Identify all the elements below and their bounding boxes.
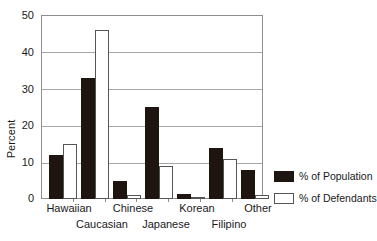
- bars-layer: [41, 15, 263, 199]
- legend-swatch-population-icon: [274, 171, 294, 182]
- x-label-japanese: Japanese: [135, 219, 197, 230]
- bar-defendants-hawaiian: [63, 144, 77, 199]
- legend-item-population: % of Population: [274, 165, 374, 187]
- legend-item-defendants: % of Defendants: [274, 187, 374, 209]
- bar-defendants-chinese: [127, 195, 141, 199]
- bar-population-caucasian: [81, 78, 95, 199]
- y-tick-label-0: 0: [0, 193, 34, 204]
- legend-label-defendants: % of Defendants: [299, 193, 377, 204]
- bar-population-japanese: [145, 107, 159, 199]
- bar-defendants-filipino: [223, 159, 237, 200]
- bar-population-hawaiian: [49, 155, 63, 199]
- x-label-korean: Korean: [167, 203, 227, 214]
- bar-defendants-korean: [191, 197, 205, 199]
- chart-legend: % of Population % of Defendants: [274, 165, 374, 209]
- bar-population-korean: [177, 194, 191, 200]
- bar-population-other: [241, 170, 255, 199]
- bar-defendants-other: [255, 195, 269, 199]
- bar-chart: Percent 50 40 30 20 10 0: [0, 0, 377, 241]
- y-tick-label-20: 20: [0, 120, 34, 131]
- x-label-hawaiian: Hawaiian: [39, 203, 99, 214]
- bar-defendants-caucasian: [95, 30, 109, 199]
- x-label-chinese: Chinese: [103, 203, 163, 214]
- bar-population-chinese: [113, 181, 127, 199]
- x-label-filipino: Filipino: [198, 219, 260, 230]
- legend-label-population: % of Population: [299, 171, 373, 182]
- y-tick-label-50: 50: [0, 10, 34, 21]
- y-tick-label-30: 30: [0, 84, 34, 95]
- y-tick-label-10: 10: [0, 157, 34, 168]
- bar-defendants-japanese: [159, 166, 173, 199]
- y-tick-label-40: 40: [0, 47, 34, 58]
- legend-swatch-defendants-icon: [274, 193, 294, 204]
- bar-population-filipino: [209, 148, 223, 200]
- x-label-caucasian: Caucasian: [71, 219, 133, 230]
